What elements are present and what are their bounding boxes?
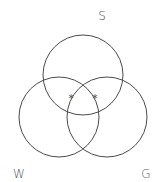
label-s: S (98, 9, 106, 23)
circle-g (67, 77, 147, 157)
label-g: G (141, 167, 150, 181)
label-w: W (13, 167, 25, 181)
asterisk-mark-sw: * (69, 93, 74, 104)
circle-s (43, 35, 123, 115)
asterisk-mark-sg: * (93, 93, 98, 104)
venn-diagram: S W G * * (0, 0, 162, 182)
circle-w (19, 77, 99, 157)
